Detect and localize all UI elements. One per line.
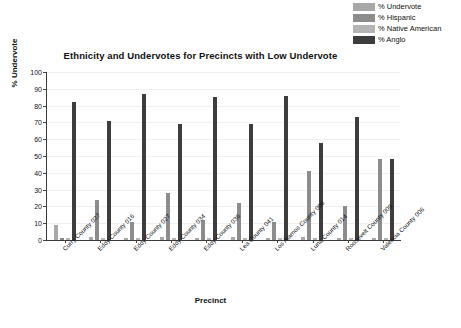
bar: [355, 117, 359, 240]
chart-legend: % Undervote % Hispanic % Native American…: [353, 2, 441, 45]
bar-group: [224, 72, 259, 240]
y-axis-tick-30: 30: [34, 186, 42, 193]
bar: [142, 94, 146, 240]
legend-item-hispanic: % Hispanic: [353, 13, 441, 23]
chart-title: Ethnicity and Undervotes for Precincts w…: [0, 50, 401, 61]
bar-group: [259, 72, 294, 240]
legend-item-anglo: % Anglo: [353, 35, 441, 45]
bar: [178, 124, 182, 240]
bar-group: [330, 72, 365, 240]
bar: [378, 159, 382, 240]
legend-label-anglo: % Anglo: [378, 36, 406, 44]
bar: [201, 220, 205, 240]
bar: [130, 222, 134, 240]
bar: [307, 171, 311, 240]
x-axis-label: Precinct: [0, 296, 421, 305]
bar: [319, 143, 323, 240]
legend-label-undervote: % Undervote: [378, 3, 421, 11]
bar: [266, 238, 270, 240]
y-axis-tick-70: 70: [34, 119, 42, 126]
bar-group: [118, 72, 153, 240]
y-axis-tick-0: 0: [38, 237, 42, 244]
bar: [160, 237, 164, 240]
y-axis-tick-60: 60: [34, 136, 42, 143]
bar: [249, 124, 253, 240]
bar-group: [153, 72, 188, 240]
y-axis-tick-100: 100: [30, 69, 42, 76]
bar: [272, 222, 276, 240]
bar-group: [47, 72, 82, 240]
legend-label-hispanic: % Hispanic: [378, 14, 416, 22]
legend-swatch-hispanic: [353, 14, 375, 22]
bar: [72, 102, 76, 240]
bar: [60, 238, 64, 240]
bar: [372, 238, 376, 240]
y-axis-ticks: 0102030405060708090100: [22, 72, 46, 240]
y-axis-tick-90: 90: [34, 85, 42, 92]
bar: [54, 225, 58, 240]
bar: [284, 96, 288, 240]
x-axis-tick-labels: Curry County 037Eddy County 016Eddy Coun…: [0, 245, 461, 290]
legend-swatch-native-american: [353, 25, 375, 33]
bar: [390, 159, 394, 240]
legend-label-native-american: % Native American: [378, 25, 441, 33]
y-axis-label: % Undervote: [10, 18, 19, 108]
bar: [213, 97, 217, 240]
legend-swatch-undervote: [353, 3, 375, 11]
bar: [124, 238, 128, 240]
y-axis-tick-80: 80: [34, 102, 42, 109]
y-axis-tick-20: 20: [34, 203, 42, 210]
bar: [231, 237, 235, 240]
bar: [89, 237, 93, 240]
bar: [107, 121, 111, 240]
legend-swatch-anglo: [353, 36, 375, 44]
legend-item-native-american: % Native American: [353, 24, 441, 34]
y-axis-tick-10: 10: [34, 220, 42, 227]
legend-item-undervote: % Undervote: [353, 2, 441, 12]
y-axis-tick-40: 40: [34, 169, 42, 176]
y-axis-tick-50: 50: [34, 153, 42, 160]
bar: [195, 238, 199, 240]
bar: [301, 237, 305, 240]
bar: [337, 238, 341, 240]
bar-group: [189, 72, 224, 240]
